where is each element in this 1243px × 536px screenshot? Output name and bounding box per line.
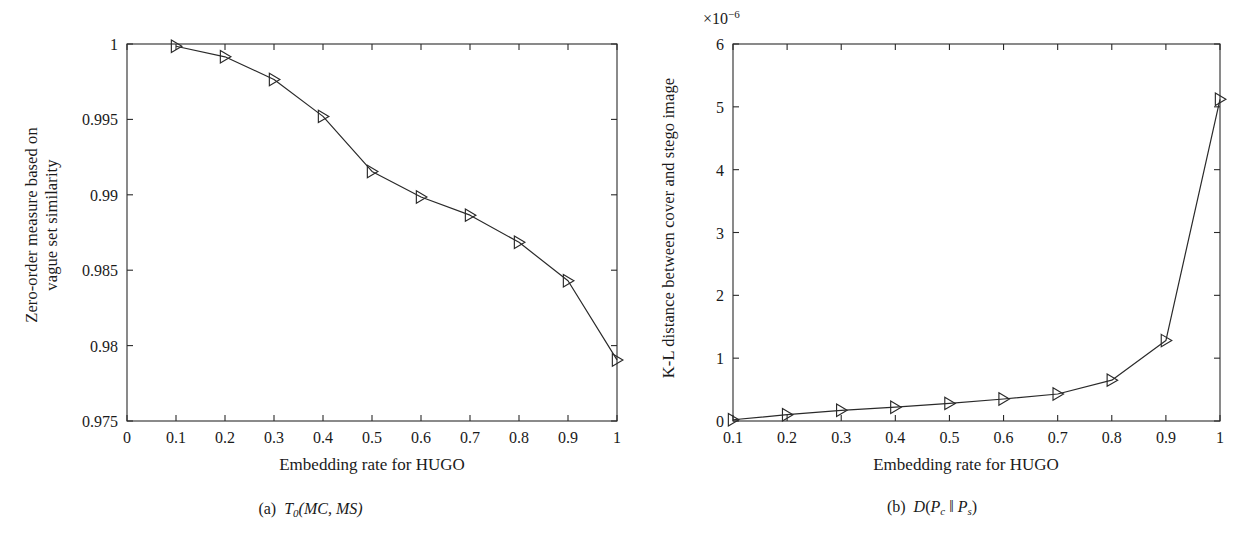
x-axis-label-b: Embedding rate for HUGO — [721, 455, 1211, 475]
x-tick-label-b: 0.9 — [1156, 429, 1176, 446]
caption-subscript-a: 0 — [293, 507, 299, 519]
data-marker-b — [1215, 93, 1226, 105]
x-tick-label-b: 0.8 — [1102, 429, 1122, 446]
y-tick-label-b: 4 — [716, 162, 724, 179]
figure-container: Zero-order measure based on vague set si… — [0, 0, 1243, 536]
y-tick-label-b: 6 — [716, 36, 724, 53]
data-line-b — [733, 99, 1220, 419]
plot-area-b: 0.10.20.30.40.50.60.70.80.910123456 — [0, 0, 1243, 470]
y-tick-label-b: 5 — [716, 99, 724, 116]
y-tick-label-b: 0 — [716, 413, 724, 430]
y-tick-label-b: 3 — [716, 225, 724, 242]
x-tick-label-b: 0.5 — [939, 429, 959, 446]
caption-args-a: (MC, MS) — [299, 500, 363, 517]
panel-caption-b: (b) D(Pc ‖ Ps) — [621, 498, 1243, 516]
x-tick-label-b: 0.7 — [1048, 429, 1068, 446]
x-tick-label-b: 1 — [1216, 429, 1224, 446]
x-tick-label-b: 0.4 — [885, 429, 905, 446]
chart-panel-b: K-L distance between cover and stego ima… — [621, 0, 1243, 536]
y-tick-label-b: 1 — [716, 350, 724, 367]
caption-args-b: (Pc ‖ Ps) — [925, 498, 977, 515]
caption-prefix-b: (b) — [887, 498, 906, 515]
panel-caption-a: (a) T0(MC, MS) — [0, 500, 621, 518]
x-tick-label-b: 0.6 — [994, 429, 1014, 446]
y-tick-label-b: 2 — [716, 287, 724, 304]
caption-symbol-b: D — [914, 498, 926, 515]
caption-prefix-a: (a) — [258, 500, 276, 517]
x-tick-label-b: 0.3 — [831, 429, 851, 446]
caption-symbol-a: T — [284, 500, 293, 517]
x-tick-label-b: 0.1 — [723, 429, 743, 446]
x-tick-label-b: 0.2 — [777, 429, 797, 446]
axis-frame-b — [733, 44, 1220, 421]
